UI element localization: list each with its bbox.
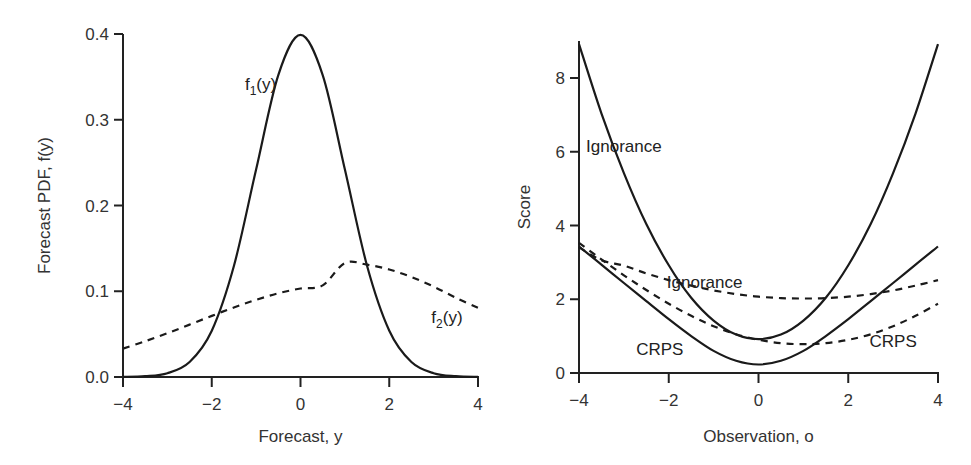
series-f2-y: [123, 262, 478, 349]
x-tick-label: 2: [844, 391, 853, 410]
x-tick-label: 4: [473, 395, 482, 414]
y-tick-label: 0: [556, 364, 565, 383]
curve-annotation: Ignorance: [667, 273, 743, 292]
x-tick-label: 4: [933, 391, 942, 410]
y-tick-label: 8: [556, 69, 565, 88]
y-tick-label: 6: [556, 143, 565, 162]
curve-annotation: f1(y): [245, 75, 276, 98]
axes-frame: [123, 34, 478, 387]
left-panel-pdf: 0.00.10.20.30.4−4−2024Forecast, yForecas…: [35, 25, 483, 446]
curve-annotation: CRPS: [870, 332, 917, 351]
x-tick-label: 2: [385, 395, 394, 414]
x-tick-label: 0: [296, 395, 305, 414]
y-axis-label: Score: [515, 185, 534, 229]
series-crps-f2: [579, 243, 938, 344]
y-tick-label: 0.0: [85, 368, 109, 387]
x-tick-label: −2: [202, 395, 221, 414]
y-tick-label: 2: [556, 290, 565, 309]
y-axis-label: Forecast PDF, f(y): [35, 137, 54, 274]
y-tick-label: 0.4: [85, 25, 109, 44]
y-tick-label: 0.2: [85, 197, 109, 216]
curve-annotation: Ignorance: [586, 137, 662, 156]
y-tick-label: 0.1: [85, 282, 109, 301]
y-tick-label: 0.3: [85, 111, 109, 130]
curve-annotation: f2(y): [431, 308, 462, 331]
series-f1-y: [123, 35, 478, 377]
figure: 0.00.10.20.30.4−4−2024Forecast, yForecas…: [0, 0, 971, 465]
x-tick-label: −4: [569, 391, 588, 410]
series-ignorance-f1: [579, 44, 938, 339]
x-axis-label: Forecast, y: [258, 427, 343, 446]
x-tick-label: −2: [659, 391, 678, 410]
x-axis-label: Observation, o: [703, 427, 814, 446]
curve-annotation: CRPS: [636, 340, 683, 359]
x-tick-label: −4: [113, 395, 132, 414]
right-panel-scores: 02468−4−2024Observation, oScoreIgnorance…: [515, 41, 943, 446]
x-tick-label: 0: [754, 391, 763, 410]
y-tick-label: 4: [556, 217, 565, 236]
